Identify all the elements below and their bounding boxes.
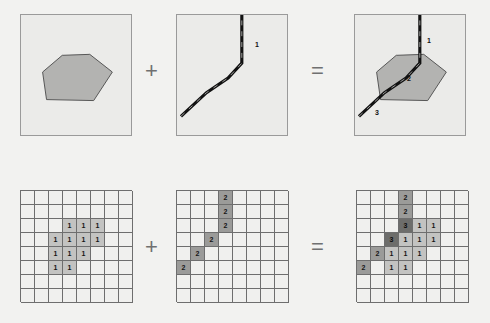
grid-cell: 3	[399, 219, 413, 233]
grid-cell	[247, 289, 261, 303]
grid-raster-result: 2231131112111211	[356, 190, 468, 302]
line-vector-graphic	[177, 15, 287, 135]
grid-cell	[119, 205, 133, 219]
grid-cell: 1	[49, 233, 63, 247]
grid-cell	[233, 275, 247, 289]
grid-cell	[371, 233, 385, 247]
grid-cell	[455, 191, 469, 205]
grid-cell	[91, 205, 105, 219]
grid-cell	[91, 261, 105, 275]
figure-root: + 1 = 1 2 3 111111111111 + 222222 = 2231…	[0, 0, 490, 323]
grid-cell	[49, 275, 63, 289]
grid-cell	[441, 289, 455, 303]
grid-cell	[441, 275, 455, 289]
grid-cell	[261, 219, 275, 233]
grid-cell	[191, 275, 205, 289]
grid-cell	[261, 275, 275, 289]
grid-cell	[413, 205, 427, 219]
grid-cell	[357, 275, 371, 289]
grid-cell	[261, 247, 275, 261]
grid-cell	[275, 205, 289, 219]
grid-cell	[77, 289, 91, 303]
grid-raster-line: 222222	[176, 190, 288, 302]
grid-cell	[177, 289, 191, 303]
grid-cell	[455, 205, 469, 219]
grid-cell: 2	[205, 233, 219, 247]
grid-cell	[177, 275, 191, 289]
grid-cell: 1	[399, 261, 413, 275]
grid-cell: 2	[177, 261, 191, 275]
grid-cell	[413, 261, 427, 275]
grid-cell	[247, 275, 261, 289]
grid-cell	[233, 289, 247, 303]
grid-cell	[177, 205, 191, 219]
grid-cell	[371, 275, 385, 289]
grid-cell	[219, 289, 233, 303]
grid-cell	[275, 219, 289, 233]
grid-cell	[91, 275, 105, 289]
grid-cell: 1	[385, 261, 399, 275]
grid-cell	[233, 205, 247, 219]
grid-cell	[177, 247, 191, 261]
grid-cell	[371, 289, 385, 303]
grid-cell	[35, 233, 49, 247]
grid-cell: 1	[77, 233, 91, 247]
grid-cell	[49, 191, 63, 205]
grid-cell	[371, 191, 385, 205]
grid-cell	[413, 275, 427, 289]
grid-cell: 1	[63, 261, 77, 275]
operator-equals-bottom: =	[311, 236, 324, 258]
grid-cell	[427, 191, 441, 205]
grid-cell	[191, 219, 205, 233]
grid-cell	[275, 191, 289, 205]
grid-cell	[91, 191, 105, 205]
grid-cell	[105, 289, 119, 303]
grid-cell	[261, 289, 275, 303]
grid-cell	[21, 219, 35, 233]
grid-cell	[233, 247, 247, 261]
grid-cell	[427, 275, 441, 289]
grid-cell	[219, 261, 233, 275]
grid-cell	[357, 247, 371, 261]
grid-cell	[105, 191, 119, 205]
overlay-polygon-shape	[377, 54, 447, 100]
grid-cell: 2	[191, 247, 205, 261]
grid-cell: 1	[91, 233, 105, 247]
grid-cell	[357, 289, 371, 303]
grid-cell	[385, 289, 399, 303]
grid-cell	[105, 233, 119, 247]
line-shape	[181, 15, 242, 116]
grid-cell	[49, 205, 63, 219]
grid-cell	[63, 275, 77, 289]
grid-cell: 1	[63, 233, 77, 247]
grid-cell: 1	[49, 261, 63, 275]
grid-cell	[21, 233, 35, 247]
grid-cell	[399, 275, 413, 289]
grid-cell	[441, 205, 455, 219]
grid-cell	[357, 233, 371, 247]
grid-cell	[233, 191, 247, 205]
grid-cell: 1	[63, 247, 77, 261]
grid-cell	[441, 233, 455, 247]
grid-cell	[275, 233, 289, 247]
grid-cell	[261, 191, 275, 205]
grid-cell: 2	[219, 219, 233, 233]
grid-cell	[233, 261, 247, 275]
grid-cell	[357, 191, 371, 205]
grid-cell	[261, 205, 275, 219]
grid-cell	[385, 219, 399, 233]
grid-cell: 1	[399, 247, 413, 261]
grid-cell	[119, 275, 133, 289]
operator-equals-top: =	[311, 60, 324, 82]
grid-cell: 1	[413, 219, 427, 233]
grid-cell	[91, 289, 105, 303]
grid-cell	[247, 191, 261, 205]
grid-cell	[371, 219, 385, 233]
panel-line-layer: 1	[176, 14, 288, 136]
grid-cell: 1	[91, 219, 105, 233]
operator-plus-top: +	[145, 60, 158, 82]
grid-cell	[119, 219, 133, 233]
grid-cell: 1	[77, 247, 91, 261]
grid-cell: 2	[219, 205, 233, 219]
grid-cell	[21, 289, 35, 303]
